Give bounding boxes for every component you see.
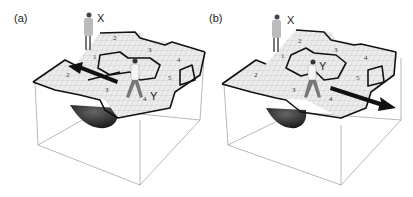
svg-text:2: 2 [66, 71, 70, 79]
person-y-label: Y [150, 90, 158, 102]
svg-text:1: 1 [281, 52, 285, 60]
svg-text:5: 5 [356, 74, 360, 82]
svg-text:2: 2 [113, 34, 117, 42]
person-y-label: Y [319, 60, 327, 72]
svg-text:3: 3 [334, 46, 338, 54]
svg-text:3: 3 [148, 46, 152, 54]
person-x-label: X [97, 12, 105, 24]
panel-a: (a) [0, 0, 206, 197]
svg-text:3: 3 [292, 86, 296, 94]
svg-text:4: 4 [143, 95, 147, 103]
svg-text:4: 4 [177, 56, 181, 64]
svg-text:1: 1 [93, 53, 97, 61]
svg-text:4: 4 [329, 95, 333, 103]
person-x-label: X [287, 14, 295, 26]
svg-text:2: 2 [298, 37, 302, 45]
svg-text:2: 2 [254, 71, 258, 79]
floor-landscape-diagram: 1 2 2 3 3 4 4 5 X Y [0, 0, 206, 197]
potential-well [70, 105, 118, 128]
svg-text:5: 5 [168, 74, 172, 82]
svg-text:4: 4 [364, 54, 368, 62]
panel-b: (b) 1 2 2 [206, 0, 412, 197]
person-x-figure [272, 15, 281, 53]
svg-text:3: 3 [105, 86, 109, 94]
floor-landscape-diagram: 1 2 2 3 3 4 4 5 X Y [206, 0, 412, 197]
